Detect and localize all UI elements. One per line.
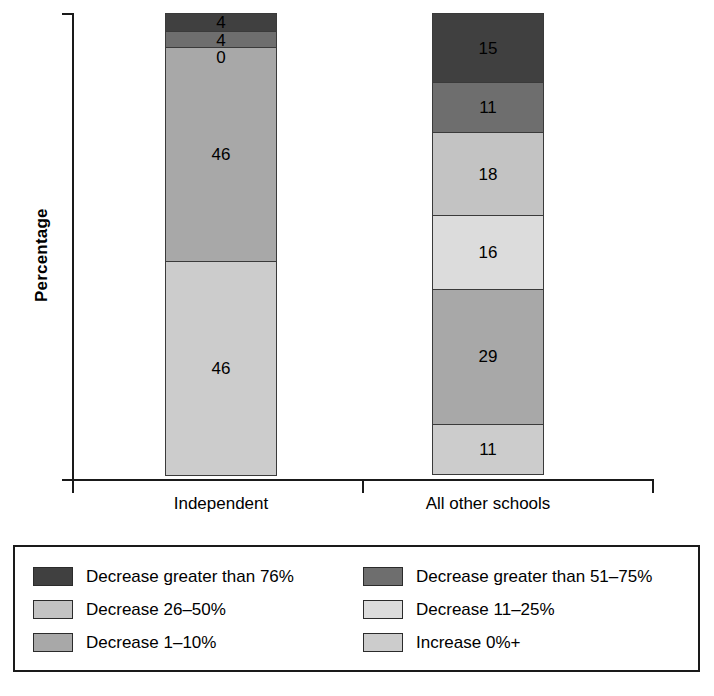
bar-segment[interactable]: 4: [165, 13, 277, 32]
bar-segment[interactable]: 18: [432, 132, 544, 216]
bar-segment-value: 46: [212, 146, 231, 163]
legend-item[interactable]: Decrease 11–25%: [363, 600, 683, 619]
bar-segment-value: 4: [216, 32, 225, 49]
category-label-independent: Independent: [141, 494, 301, 514]
legend-swatch: [363, 567, 403, 586]
bar-segment[interactable]: 29: [432, 289, 544, 424]
bar-segment-value: 11: [479, 441, 497, 458]
legend-swatch: [363, 633, 403, 652]
stacked-bar-independent[interactable]: 4404646: [165, 13, 277, 480]
bar-segment-value: 29: [479, 348, 498, 365]
legend-label: Decrease 26–50%: [86, 601, 226, 618]
legend-label: Decrease greater than 76%: [86, 568, 294, 585]
stacked-bar-all-other-schools[interactable]: 151118162911: [432, 13, 544, 480]
bar-segment[interactable]: 11: [432, 82, 544, 133]
legend-label: Decrease greater than 51–75%: [416, 568, 652, 585]
bar-segment[interactable]: 16: [432, 215, 544, 290]
bar-segment-value: 18: [479, 166, 498, 183]
legend-label: Decrease 11–25%: [416, 601, 555, 618]
legend-swatch: [33, 600, 73, 619]
legend-grid: Decrease greater than 76%Decrease greate…: [33, 560, 683, 659]
legend-swatch: [33, 633, 73, 652]
bar-segment[interactable]: 15: [432, 13, 544, 83]
x-axis-tick-left: [72, 481, 74, 493]
legend-item[interactable]: Decrease 26–50%: [33, 600, 363, 619]
bar-segment[interactable]: 46: [165, 261, 277, 476]
legend-item[interactable]: Increase 0%+: [363, 633, 683, 652]
bar-segment-value: 16: [479, 244, 498, 261]
legend-swatch: [33, 567, 73, 586]
x-axis-tick-middle: [362, 481, 364, 493]
legend-label: Decrease 1–10%: [86, 634, 216, 651]
bar-segment-value: 11: [479, 99, 497, 116]
bar-segment-value: 4: [216, 14, 225, 31]
chart-legend: Decrease greater than 76%Decrease greate…: [13, 545, 700, 672]
bar-segment-value: 46: [212, 360, 231, 377]
bar-segment[interactable]: 11: [432, 424, 544, 475]
chart-plot-area: Percentage 4404646 151118162911 Independ…: [0, 0, 714, 530]
bar-segment-value: 0: [216, 49, 225, 66]
legend-label: Increase 0%+: [416, 634, 520, 651]
category-label-all-other-schools: All other schools: [407, 494, 569, 514]
legend-item[interactable]: Decrease 1–10%: [33, 633, 363, 652]
bar-segment-value: 15: [479, 40, 498, 57]
x-axis-tick-right: [652, 481, 654, 493]
legend-swatch: [363, 600, 403, 619]
bars-container: 4404646 151118162911: [0, 13, 714, 480]
legend-item[interactable]: Decrease greater than 51–75%: [363, 567, 683, 586]
legend-item[interactable]: Decrease greater than 76%: [33, 567, 363, 586]
bar-segment[interactable]: 46: [165, 47, 277, 262]
